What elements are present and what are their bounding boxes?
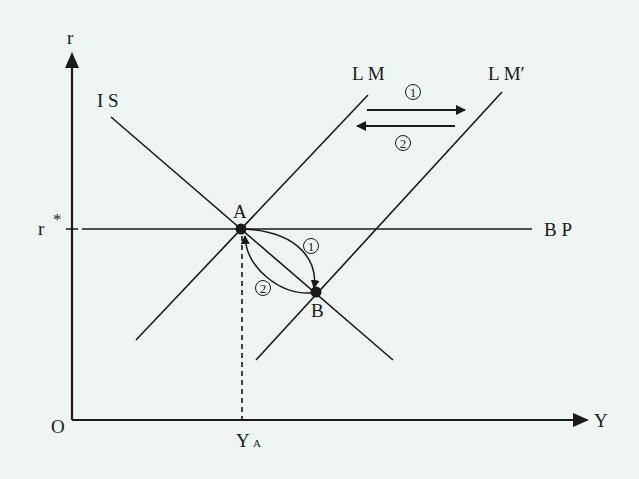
ya-sub: A	[253, 437, 261, 449]
shift-left-badge: 2	[396, 136, 411, 151]
origin-label: O	[51, 416, 65, 437]
point-a-label: A	[233, 201, 247, 222]
curve-arrow-b-to-a-icon	[245, 236, 312, 293]
r-star-sup: *	[53, 210, 62, 229]
x-axis	[72, 413, 589, 427]
ya-label: Y	[236, 430, 250, 451]
point-a	[236, 224, 247, 235]
lm-label: L M	[352, 63, 385, 84]
move-b-to-a-badge: 2	[256, 281, 271, 296]
svg-text:1: 1	[308, 239, 315, 254]
lm-curve	[136, 95, 368, 340]
y-axis-arrow-icon	[65, 52, 79, 68]
svg-text:2: 2	[260, 281, 267, 296]
is-label: I S	[97, 90, 119, 111]
x-axis-label: Y	[594, 410, 608, 431]
shift-right-badge: 1	[406, 85, 421, 100]
r-star-label: r	[38, 218, 45, 239]
y-axis-label: r	[67, 27, 74, 48]
y-axis	[65, 52, 79, 420]
point-b-label: B	[311, 300, 324, 321]
point-b	[311, 287, 322, 298]
x-axis-arrow-icon	[573, 413, 589, 427]
bp-label: B P	[544, 219, 572, 240]
move-a-to-b-badge: 1	[304, 239, 319, 254]
is-lm-bp-diagram: 1 2 1 2 r Y O r * Y A I S L M L M′ B P A…	[0, 0, 639, 479]
curve-arrow-a-to-b-icon	[244, 229, 315, 288]
lm-prime-curve	[256, 92, 502, 360]
is-curve	[111, 117, 393, 360]
svg-text:2: 2	[400, 136, 407, 151]
svg-text:1: 1	[410, 85, 417, 100]
lm-prime-label: L M′	[488, 63, 525, 84]
